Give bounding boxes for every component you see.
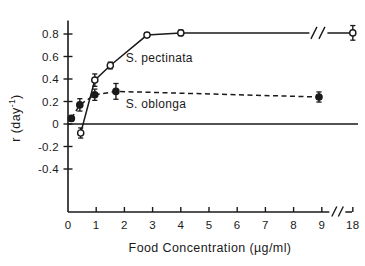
- series-s-pectinata-marker: [178, 30, 184, 36]
- x-axis-tick-label: 9: [318, 219, 325, 231]
- x-axis-tick-label: 7: [262, 219, 269, 231]
- series-s-oblonga-marker: [92, 92, 98, 98]
- y-axis-tick-label: 0.6: [42, 51, 59, 63]
- x-axis-tick-label: 2: [121, 219, 128, 231]
- x-axis-tick-label: 4: [177, 219, 184, 231]
- series-annotation-2: S. oblonga: [126, 97, 186, 111]
- series-s-pectinata-marker: [107, 62, 113, 68]
- series-s-oblonga-marker: [68, 115, 74, 121]
- series-s-oblonga-line: [71, 91, 319, 118]
- x-axis-break-mask: [329, 208, 345, 216]
- series-s-pectinata-marker: [92, 77, 98, 83]
- y-axis-tick-label: 0.8: [42, 28, 59, 40]
- x-axis-tick-label: 8: [290, 219, 297, 231]
- series-s-oblonga-marker: [113, 88, 119, 94]
- y-axis-tick-label: -0.4: [38, 163, 59, 175]
- y-axis-tick-label: -0.2: [38, 141, 59, 153]
- y-axis-tick-label: 0.2: [42, 96, 59, 108]
- data-series-group: [68, 26, 356, 139]
- labels-group: 0.80.60.40.20-0.2-0.4012345678918S. pect…: [7, 28, 360, 255]
- y-axis-tick-label: 0: [52, 118, 59, 130]
- series-s-pectinata-marker: [144, 32, 150, 38]
- y-axis-title-text: r (day-1): [7, 94, 23, 141]
- chart-canvas: 0.80.60.40.20-0.2-0.4012345678918S. pect…: [0, 0, 365, 266]
- series-s-pectinata: [78, 26, 356, 139]
- x-axis-tick-label: 3: [149, 219, 156, 231]
- figure-container: 0.80.60.40.20-0.2-0.4012345678918S. pect…: [0, 0, 365, 266]
- series-annotation-1: S. pectinata: [126, 51, 193, 65]
- x-axis-tick-label: 6: [234, 219, 241, 231]
- y-axis-tick-label: 0.4: [42, 73, 59, 85]
- x-axis-tick-label: 0: [65, 219, 72, 231]
- series-s-pectinata-line: [81, 33, 353, 133]
- series-s-oblonga: [68, 84, 322, 122]
- x-axis-tick-label: 1: [93, 219, 100, 231]
- series-s-oblonga-marker: [77, 102, 83, 108]
- series-s-pectinata-marker: [78, 130, 84, 136]
- series-s-oblonga-marker: [316, 94, 322, 100]
- series-s-pectinata-marker: [350, 30, 356, 36]
- x-axis-tick-label: 5: [206, 219, 213, 231]
- axes-group: [64, 21, 359, 217]
- x-axis-tick-label: 18: [346, 219, 359, 231]
- x-axis-title: Food Concentration (µg/ml): [129, 241, 292, 255]
- y-axis-title: r (day-1): [7, 94, 23, 141]
